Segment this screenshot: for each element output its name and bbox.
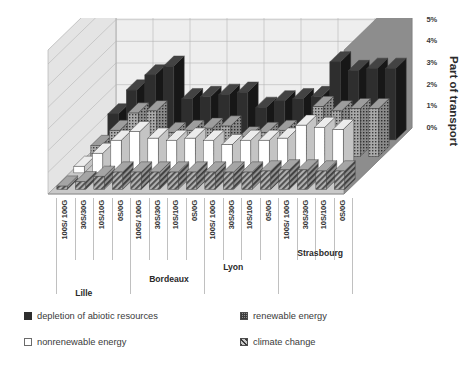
y-axis-tick-label: 4% — [417, 36, 437, 45]
y-axis-tick-label: 2% — [417, 80, 437, 89]
legend-swatch-icon — [240, 312, 248, 320]
y-axis-tick-label: 6% — [417, 0, 437, 2]
chart-figure: 0%1%2%3%4%5%6% Part of transport 100S/ 1… — [0, 0, 463, 373]
y-axis-title: Part of transport — [446, 26, 462, 176]
y-axis-tick-label: 1% — [417, 101, 437, 110]
legend-item: nonrenewable energy — [24, 337, 126, 347]
x-axis-group-label: Strasbourg — [297, 248, 343, 258]
legend-label: depletion of abiotic resources — [37, 311, 158, 321]
legend-label: nonrenewable energy — [37, 337, 126, 347]
y-axis-tick-label: 3% — [417, 58, 437, 67]
x-axis-group-label: Lyon — [223, 262, 243, 272]
legend-label: climate change — [253, 337, 316, 347]
legend-label: renewable energy — [253, 311, 327, 321]
x-axis-group-label: Lille — [75, 288, 92, 298]
legend-swatch-icon — [24, 338, 32, 346]
legend-item: depletion of abiotic resources — [24, 311, 158, 321]
legend-item: renewable energy — [240, 311, 327, 321]
legend-item: climate change — [240, 337, 316, 347]
y-axis-tick-label: 5% — [417, 15, 437, 24]
plot-area — [0, 18, 432, 223]
y-axis-tick-label: 0% — [417, 123, 437, 132]
legend-swatch-icon — [24, 312, 32, 320]
chart-legend: depletion of abiotic resourcesnonrenewab… — [24, 311, 444, 367]
legend-swatch-icon — [240, 338, 248, 346]
x-axis-group-label: Bordeaux — [149, 274, 189, 284]
bar-chart-3d — [0, 18, 432, 223]
bar — [368, 98, 389, 156]
